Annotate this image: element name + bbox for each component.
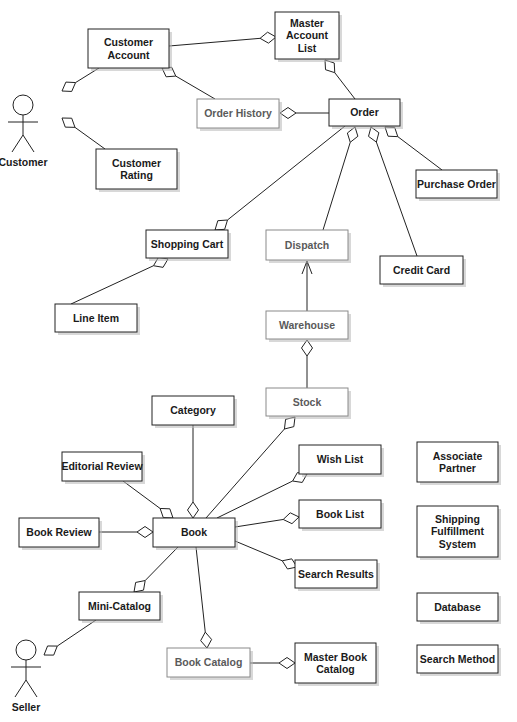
class-database[interactable]: Database (417, 593, 501, 624)
class-label: Order History (204, 107, 272, 119)
association-line (323, 127, 358, 230)
class-label: Book Catalog (175, 656, 243, 668)
aggregation-diamond-icon (302, 340, 313, 356)
class-search-results[interactable]: Search Results (295, 560, 380, 591)
class-order-history[interactable]: Order History (197, 99, 282, 131)
class-label: Editorial Review (61, 460, 143, 472)
association-line (369, 127, 417, 256)
class-associate-partner[interactable]: AssociatePartner (417, 442, 501, 485)
actor-layer: CustomerSeller (0, 95, 48, 713)
class-label: Book List (316, 508, 364, 520)
aggregation-diamond-icon (215, 220, 227, 230)
class-label: Partner (439, 462, 476, 474)
association-line (71, 257, 168, 304)
class-label: Mini-Catalog (88, 600, 151, 612)
class-master-book-catalog[interactable]: Master BookCatalog (295, 643, 379, 686)
class-label: Search Method (420, 653, 495, 665)
class-editorial-review[interactable]: Editorial Review (61, 452, 145, 484)
actor-label: Seller (12, 701, 41, 713)
association-line (134, 547, 178, 592)
aggregation-diamond-icon (260, 32, 276, 43)
class-line-item[interactable]: Line Item (55, 304, 140, 335)
association-line (169, 32, 276, 46)
class-wish-list[interactable]: Wish List (299, 445, 384, 477)
class-label: Wish List (317, 453, 364, 465)
class-label: Stock (293, 396, 322, 408)
class-label: Rating (120, 169, 153, 181)
association-line (302, 261, 312, 311)
association-line (280, 108, 329, 119)
class-warehouse[interactable]: Warehouse (266, 311, 351, 342)
association-line (206, 417, 295, 518)
class-label: Dispatch (285, 239, 329, 251)
actor-head-icon (16, 640, 36, 660)
class-label: Associate (433, 450, 483, 462)
aggregation-diamond-icon (201, 632, 212, 648)
class-label: System (439, 538, 476, 550)
class-book-list[interactable]: Book List (299, 500, 384, 531)
association-line (62, 118, 105, 149)
aggregation-diamond-icon (279, 658, 295, 669)
class-label: Shipping (435, 513, 480, 525)
association-line (123, 481, 173, 518)
class-label: Account (108, 49, 151, 61)
association-line (99, 527, 153, 538)
aggregation-diamond-icon (347, 127, 358, 142)
class-search-method[interactable]: Search Method (417, 645, 501, 676)
class-label: Database (434, 601, 481, 613)
class-label: Fulfillment (431, 525, 485, 537)
association-line (302, 340, 313, 388)
class-label: List (298, 42, 317, 54)
class-category[interactable]: Category (152, 396, 237, 428)
class-purchase-order[interactable]: Purchase Order (416, 170, 500, 201)
class-book[interactable]: Book (153, 518, 238, 550)
aggregation-diamond-icon (160, 508, 173, 518)
aggregation-diamond-icon (283, 513, 299, 524)
class-dispatch[interactable]: Dispatch (266, 230, 351, 263)
uml-class-diagram: CustomerAccountMasterAccountListOrder Hi… (0, 0, 517, 722)
actor-customer[interactable]: Customer (0, 95, 48, 168)
class-customer-account[interactable]: CustomerAccount (88, 29, 172, 71)
association-line (44, 620, 96, 655)
class-book-catalog[interactable]: Book Catalog (167, 648, 253, 680)
association-line (215, 126, 345, 230)
class-stock[interactable]: Stock (266, 388, 351, 419)
class-label: Master Book (304, 651, 367, 663)
aggregation-diamond-icon (134, 581, 145, 592)
actor-head-icon (13, 95, 33, 115)
class-customer-rating[interactable]: CustomerRating (96, 149, 180, 192)
class-label: Master (290, 17, 324, 29)
actor-seller[interactable]: Seller (11, 640, 41, 713)
association-line (217, 473, 307, 518)
class-label: Shopping Cart (151, 238, 224, 250)
association-line (162, 67, 215, 99)
association-line (325, 60, 355, 99)
class-book-review[interactable]: Book Review (19, 518, 102, 550)
actor-label: Customer (0, 156, 48, 168)
class-order[interactable]: Order (329, 99, 403, 129)
class-label: Credit Card (393, 264, 450, 276)
class-label: Line Item (73, 312, 119, 324)
aggregation-diamond-icon (62, 118, 75, 127)
aggregation-diamond-icon (137, 527, 153, 538)
association-line (196, 547, 212, 648)
class-label: Book Review (26, 526, 92, 538)
association-line (188, 425, 199, 518)
class-shopping-cart[interactable]: Shopping Cart (146, 230, 231, 261)
class-label: Search Results (298, 568, 374, 580)
class-label: Catalog (316, 663, 355, 675)
class-label: Order (350, 106, 379, 118)
class-label: Customer (104, 36, 153, 48)
association-line (235, 513, 299, 527)
class-label: Purchase Order (417, 178, 496, 190)
class-layer: CustomerAccountMasterAccountListOrder Hi… (19, 12, 501, 686)
aggregation-diamond-icon (62, 82, 76, 91)
association-line (62, 68, 99, 91)
class-label: Warehouse (279, 319, 335, 331)
class-shipping-fulfillment-system[interactable]: ShippingFulfillmentSystem (417, 506, 501, 560)
class-credit-card[interactable]: Credit Card (380, 256, 466, 287)
aggregation-diamond-icon (188, 502, 199, 518)
class-mini-catalog[interactable]: Mini-Catalog (79, 592, 163, 623)
class-master-account-list[interactable]: MasterAccountList (275, 12, 342, 62)
association-line (235, 541, 297, 569)
